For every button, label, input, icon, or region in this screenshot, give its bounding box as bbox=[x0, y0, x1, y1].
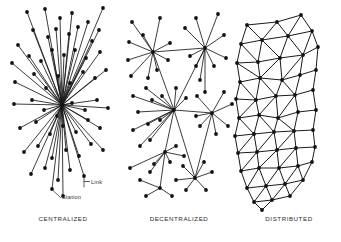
network-station bbox=[70, 101, 74, 105]
network-station bbox=[280, 78, 284, 82]
network-link bbox=[143, 35, 153, 52]
network-station bbox=[260, 38, 264, 42]
network-station bbox=[104, 68, 108, 72]
network-link bbox=[241, 171, 247, 188]
network-link bbox=[277, 148, 296, 150]
network-station bbox=[50, 156, 54, 160]
panel-decentralized bbox=[126, 12, 234, 198]
network-station bbox=[34, 120, 38, 124]
link-label: Link bbox=[91, 179, 102, 185]
network-station bbox=[278, 56, 282, 60]
network-station bbox=[46, 35, 50, 39]
network-station bbox=[48, 132, 52, 136]
annotation-layer: StationLink bbox=[53, 176, 102, 200]
caption-distributed: DISTRIBUTED bbox=[265, 215, 312, 222]
network-link bbox=[312, 31, 318, 47]
network-station bbox=[81, 70, 85, 74]
network-link bbox=[274, 131, 294, 132]
network-link bbox=[239, 118, 254, 134]
network-link bbox=[236, 99, 239, 118]
network-link bbox=[148, 52, 153, 78]
network-link bbox=[254, 115, 259, 134]
network-station bbox=[155, 68, 159, 72]
network-link bbox=[288, 36, 303, 55]
network-link bbox=[256, 100, 259, 115]
network-link bbox=[241, 44, 258, 62]
network-station bbox=[56, 74, 60, 78]
network-station bbox=[146, 76, 150, 80]
network-station bbox=[36, 144, 40, 148]
network-link bbox=[313, 90, 316, 110]
network-link bbox=[295, 95, 298, 112]
hub-station bbox=[203, 46, 207, 50]
network-link bbox=[300, 70, 316, 75]
station-leader-line bbox=[53, 191, 61, 198]
network-link bbox=[298, 110, 316, 112]
network-station bbox=[182, 154, 186, 158]
centralized-links bbox=[12, 8, 108, 196]
network-station bbox=[138, 144, 142, 148]
network-link bbox=[237, 63, 260, 78]
network-link bbox=[160, 188, 172, 196]
network-link bbox=[266, 184, 285, 186]
network-station bbox=[56, 178, 60, 182]
network-link bbox=[176, 178, 195, 180]
network-link bbox=[280, 55, 303, 58]
network-station bbox=[106, 106, 110, 110]
network-station bbox=[234, 97, 238, 101]
network-station bbox=[31, 28, 35, 32]
network-station bbox=[129, 74, 133, 78]
network-link bbox=[138, 110, 174, 112]
network-link bbox=[296, 147, 315, 148]
network-station bbox=[203, 90, 207, 94]
network-station bbox=[245, 23, 249, 27]
decentralized-stations bbox=[126, 12, 234, 198]
network-link bbox=[312, 147, 315, 162]
network-link bbox=[205, 14, 218, 48]
network-station bbox=[141, 33, 145, 37]
network-link bbox=[262, 36, 288, 40]
network-station bbox=[301, 178, 305, 182]
network-link bbox=[280, 36, 288, 58]
network-station bbox=[314, 108, 318, 112]
network-station bbox=[276, 116, 280, 120]
hub-station bbox=[193, 176, 197, 180]
network-link bbox=[316, 47, 318, 70]
panel-centralized bbox=[10, 6, 110, 198]
network-station bbox=[43, 7, 47, 11]
network-link bbox=[258, 62, 260, 78]
network-link bbox=[258, 40, 262, 62]
network-station bbox=[158, 16, 162, 20]
network-station bbox=[27, 54, 31, 58]
network-station bbox=[138, 178, 142, 182]
hub-station bbox=[151, 50, 155, 54]
network-link bbox=[259, 115, 274, 132]
network-station bbox=[198, 78, 202, 82]
network-link bbox=[274, 132, 277, 150]
central-station bbox=[60, 103, 64, 107]
network-link bbox=[239, 100, 256, 118]
network-link bbox=[247, 186, 266, 188]
network-station bbox=[93, 76, 97, 80]
network-station bbox=[44, 86, 48, 90]
network-station bbox=[311, 88, 315, 92]
network-station bbox=[148, 138, 152, 142]
network-link bbox=[240, 82, 256, 100]
network-station bbox=[128, 166, 132, 170]
network-station bbox=[98, 126, 102, 130]
network-station bbox=[160, 94, 164, 98]
network-link bbox=[266, 168, 279, 186]
network-station bbox=[25, 10, 29, 14]
network-link bbox=[294, 131, 296, 148]
network-station bbox=[174, 144, 178, 148]
network-station bbox=[237, 116, 241, 120]
hub-link bbox=[153, 48, 205, 52]
network-link bbox=[260, 78, 282, 80]
network-link bbox=[236, 99, 256, 100]
network-station bbox=[293, 93, 297, 97]
network-station bbox=[136, 110, 140, 114]
network-station bbox=[83, 108, 87, 112]
network-link bbox=[278, 112, 298, 118]
network-station bbox=[194, 114, 198, 118]
network-link bbox=[254, 186, 266, 202]
